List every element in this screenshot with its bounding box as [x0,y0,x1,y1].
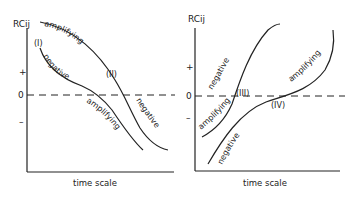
curve-III-top-text: negative [206,56,231,91]
left-x-axis-label: time scale [73,178,117,188]
right-minus-label: – [186,113,191,123]
curve-III-label: (III) [236,89,249,98]
right-x-axis-label: time scale [243,178,287,188]
right-y-axis-label: RCij [188,14,205,24]
left-chart: RCij + 0 – time scale (I) (II) amplifyin… [13,19,175,188]
right-zero-label: 0 [186,91,192,101]
curve-IV-bottom-text: negative [216,131,242,166]
curve-I-label: (I) [34,39,43,48]
left-zero-label: 0 [18,90,24,100]
diagram: RCij + 0 – time scale (I) (II) amplifyin… [0,0,357,197]
left-y-axis-label: RCij [13,19,30,29]
right-chart: RCij + 0 – time scale (III) (IV) negativ… [186,14,345,188]
left-plus-label: + [19,67,27,77]
curve-II-label: (II) [106,70,117,79]
curve-I-top-text: negative [41,52,71,81]
curve-IV-label: (IV) [271,101,285,110]
curve-II [40,22,168,150]
left-minus-label: – [19,117,24,127]
curve-II-top-text: amplifying [44,19,86,46]
right-plus-label: + [186,62,194,72]
